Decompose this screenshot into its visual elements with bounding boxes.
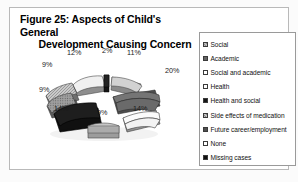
figure-title-line-1: Figure 25: Aspects of Child's General <box>18 13 196 38</box>
legend-item-side-effects-of-medication[interactable]: Side effects of medication <box>203 108 293 122</box>
pie-chart-canvas: 12% 2% 11% 9% 20% 9% 14% 9% 14% <box>16 42 194 166</box>
legend-swatch-icon <box>203 56 208 61</box>
legend-swatch-icon <box>203 155 208 160</box>
pie-label-social-and-academic: 14% <box>133 105 147 113</box>
pie-label-missing-cases: 2% <box>102 47 112 55</box>
pie-label-social: 11% <box>127 49 141 57</box>
legend-item-label: Academic <box>211 55 240 62</box>
pie-label-health: 9% <box>97 109 107 117</box>
legend-item-label: None <box>211 140 227 147</box>
legend-item-label: Social <box>211 41 229 48</box>
chart-legend: Social Academic Social and academic Heal… <box>199 32 296 166</box>
legend-item-label: Future career/employment <box>211 126 287 133</box>
figure-panel: Figure 25: Aspects of Child's General De… <box>9 7 289 170</box>
legend-swatch-icon <box>203 141 208 146</box>
pie-slice-none <box>73 76 106 96</box>
legend-item-academic[interactable]: Academic <box>203 51 293 65</box>
legend-item-label: Health <box>211 83 230 90</box>
pie-label-side-effects: 9% <box>42 61 52 69</box>
legend-item-health[interactable]: Health <box>203 80 293 94</box>
legend-swatch-icon <box>203 42 208 47</box>
pie-label-health-and-social: 14% <box>54 105 68 113</box>
legend-item-social[interactable]: Social <box>203 37 293 51</box>
legend-item-label: Health and social <box>211 97 261 104</box>
legend-item-future-career-employment[interactable]: Future career/employment <box>203 122 293 136</box>
legend-swatch-icon <box>203 70 208 75</box>
legend-item-missing-cases[interactable]: Missing cases <box>203 151 293 165</box>
pie-label-academic: 20% <box>165 67 179 75</box>
legend-item-health-and-social[interactable]: Health and social <box>203 94 293 108</box>
legend-swatch-icon <box>203 84 208 89</box>
pie-label-none: 12% <box>67 49 81 57</box>
pie-label-future-career: 9% <box>39 86 49 94</box>
legend-item-label: Side effects of medication <box>211 112 285 119</box>
legend-item-label: Missing cases <box>211 154 252 161</box>
page-background: Figure 25: Aspects of Child's General De… <box>0 0 298 182</box>
pie-slice-missing-cases <box>104 75 109 92</box>
pie-chart: 12% 2% 11% 9% 20% 9% 14% 9% 14% <box>16 42 194 166</box>
legend-item-label: Social and academic <box>211 69 271 76</box>
legend-item-none[interactable]: None <box>203 136 293 150</box>
legend-swatch-icon <box>203 98 208 103</box>
legend-swatch-icon <box>203 127 208 132</box>
legend-swatch-icon <box>203 113 208 118</box>
legend-item-social-and-academic[interactable]: Social and academic <box>203 65 293 79</box>
